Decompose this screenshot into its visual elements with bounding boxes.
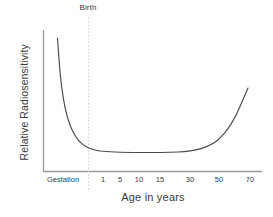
- radiosensitivity-curve: [58, 38, 249, 152]
- x-tick-15: 15: [156, 175, 164, 184]
- x-tick-gestation: Gestation: [47, 175, 79, 184]
- radiosensitivity-chart: Birth Relative Radiosensitivity Age in y…: [0, 0, 273, 217]
- x-tick-10: 10: [135, 175, 143, 184]
- x-tick-70: 70: [246, 175, 254, 184]
- x-tick-1: 1: [101, 175, 105, 184]
- chart-plot-area: [0, 0, 273, 217]
- birth-annotation-label: Birth: [0, 4, 176, 12]
- y-axis-label: Relative Radiosensitivity: [19, 32, 30, 172]
- x-axis-label: Age in years: [42, 192, 264, 203]
- x-tick-30: 30: [186, 175, 194, 184]
- x-tick-5: 5: [118, 175, 122, 184]
- x-tick-50: 50: [215, 175, 223, 184]
